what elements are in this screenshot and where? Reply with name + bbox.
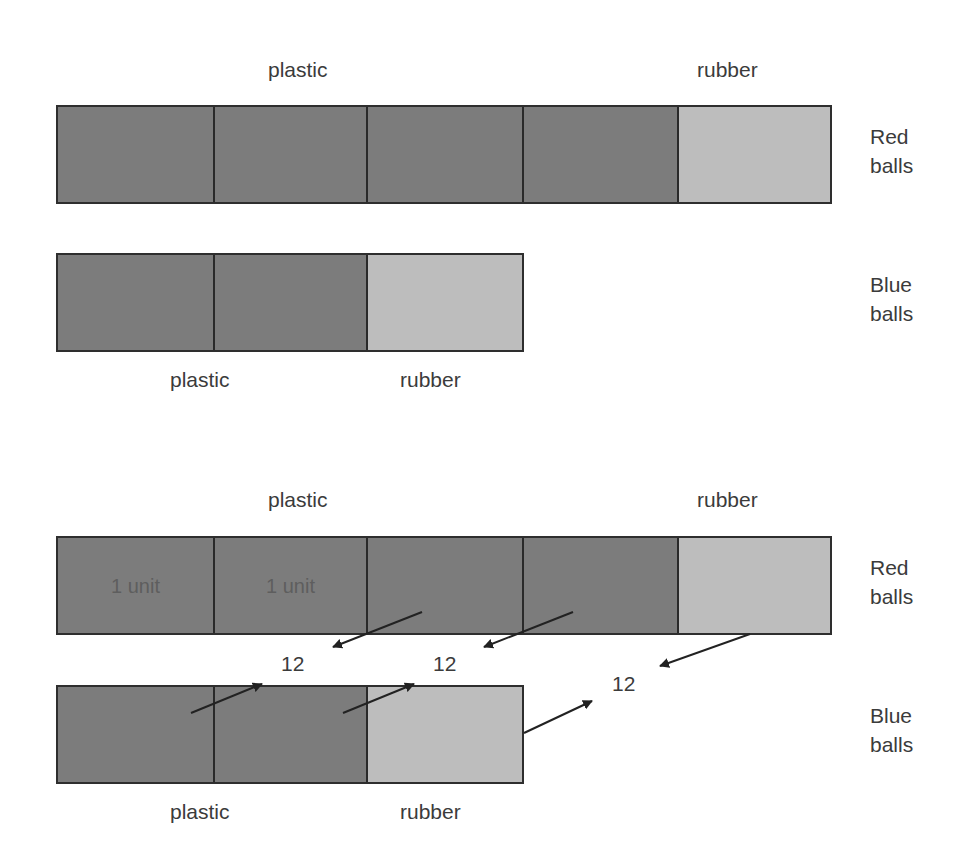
bar-segment-plastic	[524, 538, 679, 633]
red-balls-bar-before	[56, 105, 832, 204]
bar-segment-plastic	[215, 107, 368, 202]
red-top-label-plastic: plastic	[268, 58, 328, 82]
bar-segment-rubber	[679, 538, 830, 633]
transfer-value: 12	[612, 672, 635, 696]
red-top-label-rubber: rubber	[697, 488, 758, 512]
blue-bottom-label-rubber: rubber	[400, 800, 461, 824]
bar-segment-plastic: 1 unit	[58, 538, 215, 633]
transfer-value: 12	[433, 652, 456, 676]
bar-segment-rubber	[368, 687, 522, 782]
bar-segment-plastic: 1 unit	[215, 538, 368, 633]
blue-balls-bar-before	[56, 253, 524, 352]
bar-segment-plastic	[58, 255, 215, 350]
bar-segment-plastic	[215, 687, 368, 782]
blue-bottom-label-plastic: plastic	[170, 800, 230, 824]
bar-segment-rubber	[679, 107, 830, 202]
unit-label: 1 unit	[266, 574, 315, 597]
bar-segment-plastic	[58, 687, 215, 782]
arrow-icon	[660, 634, 750, 666]
blue-balls-bar-after	[56, 685, 524, 784]
arrow-icon	[524, 701, 592, 733]
transfer-value: 12	[281, 652, 304, 676]
bar-segment-rubber	[368, 255, 522, 350]
red-balls-bar-after: 1 unit 1 unit	[56, 536, 832, 635]
unit-label: 1 unit	[111, 574, 160, 597]
bar-segment-plastic	[58, 107, 215, 202]
red-top-label-plastic: plastic	[268, 488, 328, 512]
red-balls-label: Red balls	[870, 553, 913, 611]
red-balls-label: Red balls	[870, 122, 913, 180]
bar-segment-plastic	[368, 538, 524, 633]
blue-bottom-label-plastic: plastic	[170, 368, 230, 392]
bar-segment-plastic	[215, 255, 368, 350]
bar-segment-plastic	[368, 107, 524, 202]
blue-balls-label: Blue balls	[870, 701, 913, 759]
bar-segment-plastic	[524, 107, 679, 202]
blue-bottom-label-rubber: rubber	[400, 368, 461, 392]
red-top-label-rubber: rubber	[697, 58, 758, 82]
blue-balls-label: Blue balls	[870, 270, 913, 328]
